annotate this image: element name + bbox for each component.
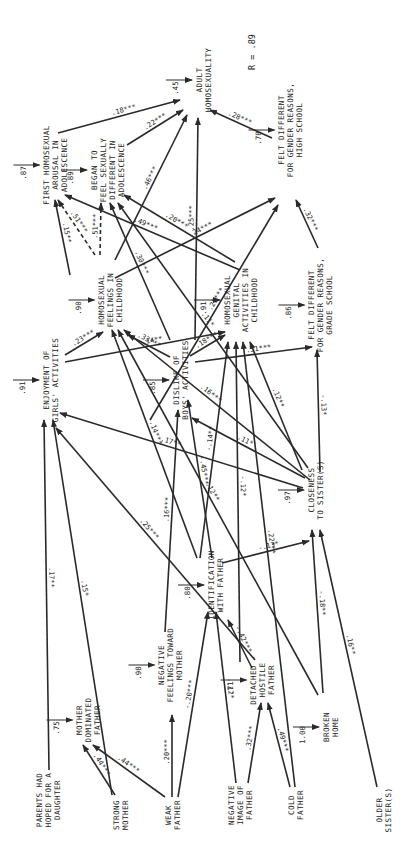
path-edge: .20*** [163, 715, 172, 797]
residual-coefficient: .98 [134, 666, 143, 679]
node-label-line: FEELINGS TOWARD [166, 628, 175, 703]
node-label-line: FELT DIFFERENT [277, 95, 286, 165]
node-label-line: ENJOYMENT OF [42, 350, 51, 410]
node-label-line: SISTER(S) [384, 788, 393, 833]
node-label-line: OLDER [375, 798, 384, 823]
node-first-homosexual-arousal: FIRST HOMOSEXUALAROUSAL INADOLESCENCE [42, 125, 69, 205]
residual-path: .98 [129, 665, 155, 680]
node-label-line: MOTHER [121, 800, 130, 830]
r-squared-label: R = .89 [247, 34, 257, 70]
residual-coefficient: .86 [284, 306, 293, 319]
node-label-line: DAUGHTER [53, 780, 62, 820]
path-edge: .28*** [210, 109, 272, 138]
path-coefficient: -.18** [317, 590, 327, 616]
edge-arrow [53, 420, 112, 795]
path-edge: -.12* [236, 342, 247, 662]
path-edge: .23*** [65, 328, 103, 355]
node-negative-image-father: NEGATIVEIMAGE OFFATHER [227, 785, 254, 825]
path-coefficient: -.13* [319, 394, 328, 415]
node-label-line: FIRST HOMOSEXUAL [42, 125, 51, 205]
node-label-line: ACTIVITIES IN [241, 268, 250, 333]
residual-coefficient: .75 [52, 721, 61, 734]
edge-arrow [178, 612, 208, 797]
node-label-line: CHILDHOOD [250, 278, 259, 323]
path-edge: .16** [320, 530, 377, 787]
node-label-line: CLOSENESS [307, 468, 316, 513]
node-began-feel-sexually-different: BEGAN TOFEEL SEXUALLYDIFFERENT INADOLESC… [90, 138, 126, 203]
node-label-line: HOMOSEXUAL [97, 275, 106, 325]
node-parents-hoped-daughter: PARENTS HADHOPED FOR ADAUGHTER [35, 773, 62, 828]
residual-coefficient: .71 [226, 681, 235, 694]
node-label-line: FELT DIFFERENT [307, 270, 316, 340]
node-label-line: ADULT [195, 68, 204, 93]
path-edge: .32*** [296, 200, 319, 248]
residual-path: .86 [279, 305, 305, 320]
node-label-line: FATHER [93, 705, 102, 735]
node-label-line: BOYS' ACTIVITIES [181, 340, 190, 420]
node-label-line: GRADE SCHOOL [325, 275, 334, 335]
node-strong-mother: STRONGMOTHER [112, 800, 130, 830]
node-label-line: DOMINATED [84, 698, 93, 743]
edge-arrow [250, 342, 302, 470]
node-label-line: DETACHED - [249, 655, 258, 705]
residual-coefficient: .90 [74, 301, 83, 314]
node-label-line: HOSTILE [258, 663, 267, 698]
path-diagram: .44***.44***.20***-.20***-.12*.32***.49*… [0, 0, 401, 867]
path-edge: .32*** [244, 703, 261, 783]
path-edge: .25*** [150, 205, 278, 420]
node-label-line: MOTHER [75, 705, 84, 735]
residual-path: .90 [69, 300, 95, 315]
edge-arrow [44, 420, 49, 770]
node-label-line: ADOLESCENCE [117, 143, 126, 198]
node-label-line: BROKEN [322, 712, 331, 742]
node-label-line: FOR GENDER REASONS, [286, 83, 295, 177]
residual-coefficient: .97 [283, 491, 292, 504]
edge-arrow [243, 342, 295, 787]
node-dislike-boys-activities: DISLIKE OFBOYS' ACTIVITIES [172, 340, 190, 420]
residual-path: .91 [13, 380, 39, 395]
path-edge: .46*** [115, 115, 187, 260]
node-weak-father: WEAKFATHER [164, 800, 182, 830]
node-older-sisters: OLDERSISTER(S) [375, 788, 393, 833]
node-label-line: IMAGE OF [236, 785, 245, 825]
node-negative-feelings-mother: NEGATIVEFEELINGS TOWARDMOTHER [157, 628, 184, 703]
edge-arrow [115, 115, 187, 260]
path-edge: .51*** [91, 203, 101, 255]
node-label-line: HOMOSEXUAL [223, 275, 232, 325]
residual-coefficient: .78 [254, 131, 263, 144]
path-edge: .15* [53, 420, 112, 795]
node-label-line: NEGATIVE [157, 645, 166, 685]
edge-arrow [150, 205, 278, 420]
node-label-line: DIFFERENT IN [108, 140, 117, 200]
residual-coefficient: .85 [148, 381, 157, 394]
node-label-line: FEELINGS IN [106, 273, 115, 328]
node-label-line: GENITAL [232, 283, 241, 318]
residual-path: .75 [47, 720, 73, 735]
node-label-line: WITH FATHER [216, 558, 225, 613]
node-homosexual-genital-activities-childhood: HOMOSEXUALGENITALACTIVITIES INCHILDHOOD [223, 268, 259, 333]
node-label-line: IDENTIFICATION [207, 550, 216, 620]
node-label-line: HIGH SCHOOL [295, 103, 304, 158]
node-label-line: HOME [331, 717, 340, 737]
path-edge: .22*** [243, 342, 295, 787]
residual-coefficient: .80 [183, 586, 192, 599]
edge-arrow [236, 342, 240, 662]
path-coefficient: .20*** [163, 739, 171, 764]
residual-path: .80 [178, 585, 204, 600]
node-label-line: GIRLS' ACTIVITIES [51, 338, 60, 423]
node-label-line: AROUSAL IN [51, 140, 60, 190]
residual-path: .45 [166, 80, 192, 95]
node-label-line: MOTHER [175, 650, 184, 680]
node-label-line: FOR GENDER REASONS, [316, 258, 325, 352]
node-identification-father: IDENTIFICATIONWITH FATHER [207, 550, 225, 620]
edges-layer: .44***.44***.20***-.20***-.12*.32***.49*… [44, 100, 377, 797]
path-edge: -.20*** [178, 612, 208, 797]
node-label-line: FATHER [267, 665, 276, 695]
path-coefficient: .16*** [162, 497, 171, 523]
path-coefficient: .25*** [187, 205, 195, 230]
node-broken-home: BROKENHOME [322, 712, 340, 742]
node-enjoyment-girls-activities: ENJOYMENT OFGIRLS' ACTIVITIES [42, 338, 60, 423]
path-edge: .15** [55, 200, 73, 275]
path-edge: -.18** [312, 530, 327, 693]
node-label-line: NEGATIVE [227, 785, 236, 825]
